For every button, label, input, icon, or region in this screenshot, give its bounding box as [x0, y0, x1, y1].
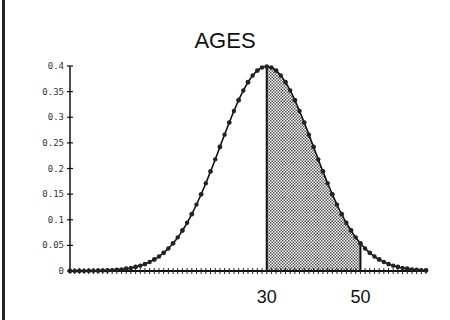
data-point — [321, 169, 326, 174]
x-tick-label: 50 — [350, 287, 370, 307]
density-curve — [70, 67, 426, 272]
y-tick-label: 0.3 — [48, 112, 64, 122]
data-point — [344, 221, 348, 225]
data-point — [161, 250, 166, 255]
data-point — [410, 267, 414, 271]
y-tick-label: 0.2 — [48, 164, 64, 174]
data-point — [176, 235, 180, 239]
data-point — [185, 221, 189, 225]
y-tick-label: 0.15 — [42, 189, 64, 199]
data-point — [307, 132, 311, 136]
data-point — [367, 250, 372, 255]
data-point — [250, 73, 254, 77]
data-point — [110, 268, 114, 272]
data-point — [330, 192, 335, 197]
data-point — [335, 202, 339, 206]
data-point — [354, 235, 358, 239]
data-point — [68, 269, 73, 274]
data-point — [124, 266, 129, 271]
data-point — [152, 257, 157, 262]
data-point — [199, 192, 204, 197]
data-point — [297, 109, 301, 113]
data-point — [189, 212, 194, 217]
data-point — [129, 266, 133, 270]
y-tick-label: 0.4 — [48, 61, 64, 71]
data-point — [325, 181, 329, 185]
data-point — [72, 269, 76, 273]
data-point — [208, 169, 213, 174]
data-point — [288, 88, 292, 92]
data-point — [419, 268, 423, 272]
data-point — [302, 120, 307, 125]
data-point — [138, 263, 142, 267]
data-point — [213, 157, 217, 161]
data-point — [204, 181, 208, 185]
data-point — [264, 64, 269, 69]
data-point — [255, 68, 260, 73]
data-point — [91, 269, 95, 273]
data-point — [105, 268, 110, 273]
y-tick-label: 0.1 — [48, 215, 64, 225]
data-point — [382, 260, 386, 264]
data-point — [227, 120, 232, 125]
data-point — [279, 73, 283, 77]
chart-plot: 00.050.10.150.20.250.30.350.43050 — [0, 0, 450, 320]
data-point — [77, 269, 82, 274]
data-point — [101, 268, 105, 272]
y-tick-label: 0.25 — [42, 138, 64, 148]
data-point — [180, 228, 185, 233]
data-point — [171, 241, 176, 246]
data-point — [86, 268, 91, 273]
data-point — [217, 145, 222, 150]
data-point — [269, 65, 273, 69]
data-point — [143, 262, 148, 267]
data-point — [232, 109, 236, 113]
data-point — [372, 254, 376, 258]
data-point — [339, 212, 344, 217]
data-point — [424, 268, 429, 273]
data-point — [236, 98, 241, 103]
data-point — [133, 265, 138, 270]
data-point — [246, 80, 251, 85]
data-point — [363, 246, 367, 250]
data-point — [194, 202, 198, 206]
data-point — [377, 257, 382, 262]
data-point — [283, 80, 288, 85]
data-point — [358, 241, 363, 246]
data-point — [386, 262, 391, 267]
data-point — [316, 157, 320, 161]
data-point — [222, 132, 226, 136]
data-point — [119, 267, 123, 271]
y-tick-label: 0.05 — [42, 240, 64, 250]
data-point — [260, 65, 264, 69]
data-point — [274, 68, 279, 73]
data-point — [349, 228, 354, 233]
data-point — [96, 268, 101, 273]
data-point — [241, 88, 245, 92]
data-point — [157, 254, 161, 258]
data-point — [311, 145, 316, 150]
data-point — [166, 246, 170, 250]
data-point — [400, 266, 404, 270]
y-tick-label: 0.35 — [42, 87, 64, 97]
y-tick-label: 0 — [59, 266, 64, 276]
data-point — [82, 269, 86, 273]
x-tick-label: 30 — [257, 287, 277, 307]
data-point — [292, 98, 297, 103]
data-point — [395, 265, 400, 270]
data-point — [414, 267, 419, 272]
data-point — [114, 267, 119, 272]
data-point — [405, 266, 410, 271]
data-point — [391, 263, 395, 267]
data-point — [147, 260, 151, 264]
shaded-area — [267, 67, 361, 272]
